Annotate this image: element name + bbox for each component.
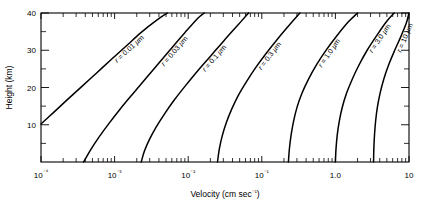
curve-label-r-0p01: r = 0.01 µm [113,33,146,64]
curve-label-r-0p03: r = 0.03 µm [159,34,190,68]
curve-r-1 [288,13,357,162]
x-tick-label: 10⁻³ [108,169,122,180]
x-tick-label: 10⁻¹ [255,169,269,180]
x-tick-label: 1.0 [330,171,342,180]
curve-r-0p01 [41,13,167,124]
curve-series [41,13,409,162]
plot-frame [41,13,409,162]
x-axis-tick-labels: 10⁻⁴10⁻³10⁻²10⁻¹1.010 [34,169,414,180]
curve-label-r-0p3: r = 0.3 µm [256,40,283,71]
curve-r-0p3 [217,13,299,162]
curve-label-r-0p1: r = 0.1 µm [200,43,228,74]
curve-label-r-10: r = 10 µm [395,22,415,54]
x-tick-label: 10 [405,171,414,180]
plot-border [41,13,409,162]
curve-r-0p03 [84,13,205,162]
curve-label-r-3: r = 3.0 µm [367,22,393,54]
curve-label-r-1: r = 1.0 µm [316,37,342,69]
y-axis-ticks [41,13,409,143]
chart-figure: r = 0.01 µmr = 0.03 µmr = 0.1 µmr = 0.3 … [0,0,427,208]
x-tick-label: 10⁻² [181,169,195,180]
curve-labels: r = 0.01 µmr = 0.03 µmr = 0.1 µmr = 0.3 … [113,22,415,74]
velocity-height-chart: r = 0.01 µmr = 0.03 µmr = 0.1 µmr = 0.3 … [0,0,427,208]
x-axis-title: Velocity (cm sec⁻¹) [190,189,259,199]
x-axis-ticks [41,13,409,162]
y-axis-tick-labels: 10203040 [27,9,36,130]
y-tick-label: 40 [27,9,36,18]
y-axis-title: Height (km) [4,65,14,109]
curve-r-0p1 [141,13,248,162]
y-tick-label: 20 [27,84,36,93]
y-tick-label: 10 [27,121,36,130]
x-tick-label: 10⁻⁴ [34,169,49,180]
y-tick-label: 30 [27,46,36,55]
